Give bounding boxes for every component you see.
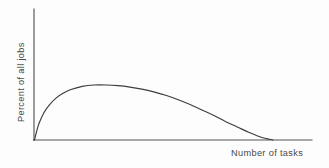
plot-area	[0, 0, 329, 168]
chart-figure: Percent of all jobs Number of tasks	[0, 0, 329, 168]
y-axis-label: Percent of all jobs	[17, 12, 29, 122]
distribution-curve	[35, 85, 274, 140]
x-axis-label: Number of tasks	[231, 149, 303, 158]
